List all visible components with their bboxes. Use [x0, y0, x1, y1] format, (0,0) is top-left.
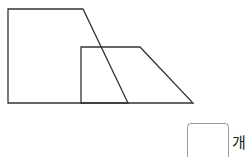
unit-label: 개	[232, 134, 246, 152]
small-trapezoid	[81, 47, 193, 103]
answer-input-box[interactable]	[187, 123, 229, 157]
large-trapezoid	[8, 9, 128, 103]
